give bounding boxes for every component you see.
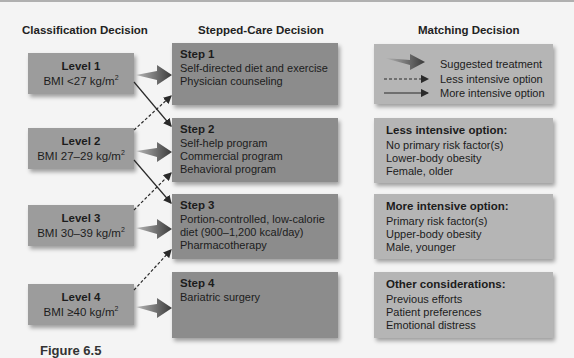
level-title: Level 4 (28, 291, 134, 303)
step-title: Step 4 (180, 277, 330, 290)
level-title: Level 1 (28, 60, 134, 72)
level-title: Level 2 (28, 135, 134, 147)
less-intensive-arrow-3 (134, 173, 171, 210)
step-line: Commercial program (180, 150, 330, 163)
less-intensive-arrow-4 (134, 250, 171, 290)
match-line: Previous efforts (386, 293, 541, 306)
step-4-box: Step 4 Bariatric surgery (172, 272, 338, 338)
level-1-box: Level 1 BMI <27 kg/m2 (28, 53, 134, 94)
suggested-arrow-level1-step1 (136, 65, 172, 85)
legend-box: Suggested treatment Less intensive optio… (374, 44, 553, 104)
match-line: Lower-body obesity (386, 152, 541, 165)
step-line: diet (900–1,200 kcal/day) (180, 226, 330, 239)
step-title: Step 2 (180, 123, 330, 136)
match-title: Other considerations: (386, 278, 541, 291)
step-3-box: Step 3 Portion-controlled, low-calorie d… (172, 194, 338, 259)
level-bmi: BMI 30–39 kg/m2 (28, 226, 134, 239)
match-line: Upper-body obesity (386, 228, 541, 241)
match-line: No primary risk factor(s) (386, 139, 541, 152)
match-line: Emotional distress (386, 319, 541, 332)
step-line: Self-help program (180, 137, 330, 150)
other-considerations-box: Other considerations: Previous efforts P… (374, 272, 553, 338)
step-line: Bariatric surgery (180, 291, 330, 304)
more-intensive-box: More intensive option: Primary risk fact… (374, 194, 553, 259)
less-intensive-box: Less intensive option: No primary risk f… (374, 118, 553, 183)
match-line: Female, older (386, 165, 541, 178)
step-line: Self-directed diet and exercise (180, 62, 330, 75)
step-line: Portion-controlled, low-calorie (180, 213, 330, 226)
step-title: Step 1 (180, 48, 330, 61)
level-4-box: Level 4 BMI ≥40 kg/m2 (28, 284, 134, 325)
level-bmi: BMI 27–29 kg/m2 (28, 149, 134, 162)
step-title: Step 3 (180, 199, 330, 212)
step-line: Pharmacotherapy (180, 239, 330, 252)
match-line: Primary risk factor(s) (386, 215, 541, 228)
step-line: Physician counseling (180, 75, 330, 88)
match-title: Less intensive option: (386, 124, 541, 137)
column-title-stepped-care: Stepped-Care Decision (198, 24, 324, 36)
suggested-arrow-level2-step2 (136, 142, 172, 162)
column-title-matching: Matching Decision (418, 24, 520, 36)
step-1-box: Step 1 Self-directed diet and exercise P… (172, 43, 338, 105)
figure-caption: Figure 6.5 (40, 343, 101, 358)
level-bmi: BMI <27 kg/m2 (28, 74, 134, 87)
more-intensive-arrow-1 (134, 82, 171, 126)
match-title: More intensive option: (386, 200, 541, 213)
level-3-box: Level 3 BMI 30–39 kg/m2 (28, 205, 134, 246)
more-intensive-arrow-2 (134, 160, 171, 203)
top-border (0, 0, 574, 2)
less-intensive-arrow-2 (134, 96, 171, 130)
level-2-box: Level 2 BMI 27–29 kg/m2 (28, 128, 134, 169)
level-bmi: BMI ≥40 kg/m2 (28, 305, 134, 318)
column-title-classification: Classification Decision (22, 24, 148, 36)
match-line: Patient preferences (386, 306, 541, 319)
suggested-arrow-level4-step4 (136, 298, 172, 318)
suggested-arrow-level3-step3 (136, 219, 172, 239)
step-2-box: Step 2 Self-help program Commercial prog… (172, 118, 338, 182)
level-title: Level 3 (28, 212, 134, 224)
match-line: Male, younger (386, 241, 541, 254)
step-line: Behavioral program (180, 163, 330, 176)
